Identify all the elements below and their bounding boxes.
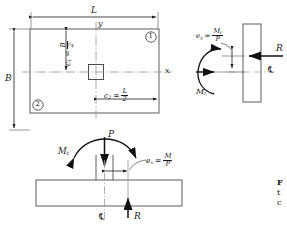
bottom-footing-slab <box>36 180 182 206</box>
bottom-ex-expression: ex=MP <box>146 153 172 169</box>
plan-footing-outline <box>30 29 159 113</box>
right-view-ey-leader <box>221 43 232 50</box>
bottom-ex-equals: = <box>155 156 161 165</box>
plan-c1-symbol: c <box>63 62 72 66</box>
plan-axis-x-label: x <box>165 67 170 75</box>
right-view-ey-subscript: y <box>200 35 202 40</box>
plan-dim-L-label: L <box>91 6 97 15</box>
plan-c1-subscript: 1 <box>67 59 72 62</box>
right-view-moment-symbol: M <box>196 87 204 96</box>
right-view-ey-fraction: MtP <box>212 28 222 43</box>
plan-c2-denominator: 2 <box>121 96 128 103</box>
right-view-ey-num-subscript: t <box>220 30 222 35</box>
plan-dim-B-label: B <box>5 74 12 83</box>
figure-caption: F t c <box>277 178 283 207</box>
bottom-ex-fraction: MP <box>163 153 172 169</box>
figure-linework <box>0 0 287 233</box>
right-view-ey-denominator: P <box>212 36 222 43</box>
bottom-ex-subscript: x <box>150 160 153 165</box>
plan-corner-marker-1: 1 <box>149 33 153 40</box>
bottom-moment-symbol: M <box>58 146 67 156</box>
bottom-centerline-label: ℄ <box>99 213 105 222</box>
right-view-ey-equals: = <box>205 32 211 40</box>
plan-axis-y-label: y <box>98 20 103 28</box>
plan-c2-fraction: L2 <box>121 88 128 104</box>
right-view-centerline-label: ℄ <box>268 66 274 75</box>
bottom-moment-expression: Mt <box>58 147 69 157</box>
right-view-R-label: R <box>276 44 283 53</box>
plan-c2-equals: = <box>113 91 119 100</box>
plan-c2-subscript: 2 <box>108 95 111 100</box>
plan-c2-expression: c2=L2 <box>104 88 128 104</box>
right-view-moment-subscript: t <box>204 90 206 96</box>
right-view-moment-expression: Mt <box>196 88 206 96</box>
plan-corner-marker-2: 2 <box>36 101 40 108</box>
plan-c1-expression: c1=B2 <box>60 41 76 66</box>
caption-line-1: F <box>277 178 283 188</box>
plan-c1-denominator: 2 <box>68 41 75 48</box>
bottom-P-label: P <box>108 130 114 139</box>
bottom-ex-leader <box>130 160 147 170</box>
bottom-moment-subscript: t <box>67 150 69 156</box>
plan-c1-equals: = <box>63 51 72 57</box>
caption-line-2: t <box>277 188 283 198</box>
bottom-ex-denominator: P <box>163 161 172 168</box>
engineering-figure: L B y x c1=B2 c2=L2 1 2 R ℄ Mt ey=MtP P … <box>0 0 287 233</box>
caption-line-3: c <box>277 198 283 208</box>
plan-c1-fraction: B2 <box>60 41 76 48</box>
bottom-R-label: R <box>134 212 141 221</box>
right-view-plate <box>243 24 261 102</box>
plan-view-group <box>9 12 172 130</box>
right-view-ey-expression: ey=MtP <box>196 28 223 43</box>
